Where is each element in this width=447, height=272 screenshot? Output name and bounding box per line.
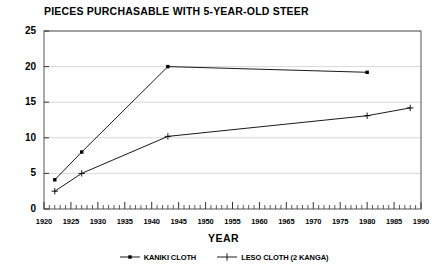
data-series <box>52 65 414 195</box>
gridlines <box>44 31 421 173</box>
y-axis-tick-label: 25 <box>10 26 36 36</box>
y-axis-tick-label: 15 <box>10 97 36 107</box>
x-axis-label: YEAR <box>0 232 447 244</box>
y-axis-tick-label: 20 <box>10 62 36 72</box>
y-axis-ticks <box>44 31 49 209</box>
legend-item[interactable]: KANIKI CLOTH <box>119 252 197 262</box>
legend-item[interactable]: LESO CLOTH (2 KANGA) <box>216 252 328 262</box>
plot-frame <box>44 31 421 209</box>
chart-figure: PIECES PURCHASABLE WITH 5-YEAR-OLD STEER… <box>0 0 447 272</box>
y-axis-tick-label: 10 <box>10 133 36 143</box>
x-axis-ticks <box>44 202 421 209</box>
chart-legend: KANIKI CLOTHLESO CLOTH (2 KANGA) <box>0 252 447 262</box>
x-axis-tick-label: 1990 <box>404 218 438 226</box>
y-axis-tick-label: 0 <box>10 204 36 214</box>
legend-label: KANIKI CLOTH <box>144 253 197 262</box>
legend-marker-plus-icon <box>216 252 238 262</box>
legend-label: LESO CLOTH (2 KANGA) <box>241 253 328 262</box>
legend-marker-square-icon <box>119 252 141 262</box>
y-axis-tick-label: 5 <box>10 168 36 178</box>
